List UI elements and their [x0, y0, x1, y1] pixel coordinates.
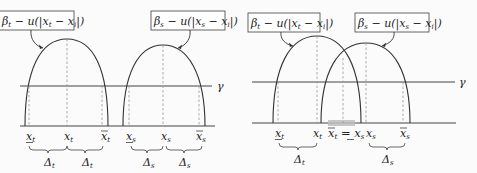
x-s-label: xs — [161, 130, 171, 144]
delta-s-label: Δs — [381, 153, 394, 167]
axis-labels: xt xt xt = xs xs xs — [275, 126, 410, 141]
pointer-arrow-t — [281, 32, 293, 46]
x-s-label: xs — [366, 127, 376, 141]
diagram-canvas: γ βt − u(|xt − xi|) βs − u(|xs − xi|) xt — [0, 0, 477, 173]
right-panel: γ βt − u(|xt − xi|) βs − u(|xs − xi|) xt — [248, 13, 466, 167]
label-text-s: βs − u(|xs − xi|) — [357, 17, 442, 31]
brace-delta-t-2 — [67, 146, 103, 153]
delta-t-label: Δt — [293, 153, 305, 167]
label-text-t: βt − u(|xt − xi|) — [1, 15, 84, 29]
x-t-lower-label: xt — [26, 130, 35, 144]
x-t-upper-label: xt — [101, 130, 110, 144]
delta-s-label: Δs — [178, 156, 191, 170]
utility-curve-s — [321, 43, 410, 123]
gamma-label: γ — [459, 76, 466, 89]
arrowhead-icon — [382, 43, 386, 48]
pointer-arrow-t — [31, 30, 43, 48]
delta-s-label: Δs — [142, 156, 155, 170]
brace-delta-s-1 — [131, 146, 163, 153]
delta-t-label: Δt — [43, 156, 55, 170]
label-text-s: βs − u(|xs − xi|) — [153, 15, 238, 29]
brace-delta-s — [369, 143, 405, 150]
delta-t-label: Δt — [81, 156, 93, 170]
left-panel: γ βt − u(|xt − xi|) βs − u(|xs − xi|) xt — [0, 11, 238, 170]
axis-labels: xt xt xt xs xs xs — [26, 130, 206, 144]
utility-curve-t — [25, 39, 108, 126]
label-text-t: βt − u(|xt − xi|) — [250, 17, 333, 31]
x-s-upper-label: xs — [400, 127, 410, 141]
x-t-label: xt — [313, 127, 322, 141]
gamma-label: γ — [217, 80, 224, 93]
brace-delta-t-1 — [29, 146, 67, 153]
x-s-lower-label: xs — [126, 130, 136, 144]
x-t-lower-label: xt — [275, 127, 284, 141]
arrowhead-icon — [178, 45, 182, 50]
pointer-arrow-s — [178, 30, 190, 48]
arrowhead-icon — [39, 45, 43, 50]
pointer-arrow-s — [382, 32, 394, 46]
x-s-upper-label: xs — [196, 130, 206, 144]
brace-delta-s-2 — [166, 146, 202, 153]
x-t-label: xt — [64, 130, 73, 144]
brace-delta-t — [279, 143, 317, 150]
